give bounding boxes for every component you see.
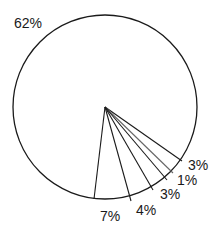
pie-chart: 62% 3% 1% 3% 4% 7% <box>0 0 222 239</box>
slice-label-3b: 3% <box>160 186 180 202</box>
slice-label-4: 4% <box>136 202 156 218</box>
slice-label-62: 62% <box>14 15 42 31</box>
slice-label-3a: 3% <box>188 157 208 173</box>
slice-label-7: 7% <box>100 208 120 224</box>
